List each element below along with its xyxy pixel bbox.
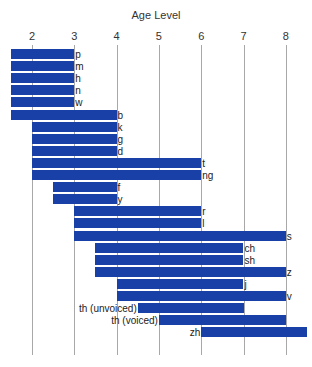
gridline-8	[286, 45, 287, 355]
bar-v	[117, 291, 286, 301]
bar-y	[53, 194, 116, 204]
bar-label: ng	[202, 170, 213, 181]
bar-ng	[32, 170, 201, 180]
bar-label: g	[118, 134, 124, 145]
bar-j	[117, 279, 244, 289]
bar-label: h	[75, 73, 81, 84]
bar-th-unvoiced	[138, 303, 244, 313]
bar-label: b	[118, 110, 124, 121]
bar-label: l	[202, 218, 204, 229]
bar-t	[32, 158, 201, 168]
bar-z	[95, 267, 285, 277]
bar-f	[53, 182, 116, 192]
bar-label: w	[75, 97, 82, 108]
bar-label: s	[287, 231, 292, 242]
bar-d	[32, 146, 117, 156]
bar-label: z	[287, 267, 292, 278]
bar-label: p	[75, 49, 81, 60]
bar-label: zh	[190, 327, 201, 338]
tick-label-3: 3	[64, 30, 84, 42]
bar-label: n	[75, 85, 81, 96]
bar-h	[11, 73, 74, 83]
bar-label: th (unvoiced)	[79, 303, 137, 314]
bar-label: v	[287, 291, 292, 302]
bar-sh	[95, 255, 243, 265]
bar-w	[11, 97, 74, 107]
bar-label: sh	[245, 255, 256, 266]
bar-l	[74, 218, 201, 228]
bar-n	[11, 85, 74, 95]
bar-th-voiced	[159, 315, 286, 325]
bar-b	[11, 110, 117, 120]
bar-label: k	[118, 122, 123, 133]
tick-label-2: 2	[22, 30, 42, 42]
bar-label: m	[75, 61, 83, 72]
bar-g	[32, 134, 117, 144]
bar-label: th (voiced)	[111, 315, 158, 326]
bar-k	[32, 122, 117, 132]
bar-r	[74, 206, 201, 216]
bar-label: d	[118, 146, 124, 157]
bar-s	[74, 231, 286, 241]
bar-label: ch	[245, 243, 256, 254]
bar-label: y	[118, 194, 123, 205]
axis-title: Age Level	[0, 9, 312, 21]
tick-label-5: 5	[149, 30, 169, 42]
tick-label-6: 6	[191, 30, 211, 42]
bar-zh	[201, 327, 307, 337]
bar-m	[11, 61, 74, 71]
bar-label: j	[245, 279, 247, 290]
bar-label: t	[202, 158, 205, 169]
bar-ch	[95, 243, 243, 253]
tick-label-4: 4	[107, 30, 127, 42]
tick-label-8: 8	[276, 30, 296, 42]
bar-label: f	[118, 182, 121, 193]
bar-label: r	[202, 206, 205, 217]
gridline-7	[244, 45, 245, 355]
tick-label-7: 7	[234, 30, 254, 42]
bar-p	[11, 49, 74, 59]
